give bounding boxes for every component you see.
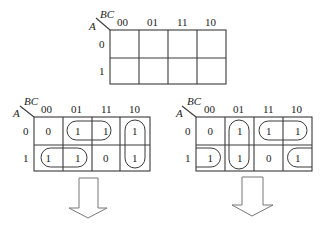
down-arrow-icon <box>69 178 107 218</box>
kmap-grouping-1: BC A 00 01 11 10 0 1 0 1 1 1 1 1 0 1 <box>12 95 150 171</box>
col-header: 11 <box>177 16 188 28</box>
cell-value: 1 <box>295 152 301 164</box>
col-header: 01 <box>71 103 82 115</box>
row-header: 1 <box>99 65 105 77</box>
cell-value: 0 <box>208 125 214 137</box>
down-arrow-icon <box>232 177 273 216</box>
cell-value: 1 <box>75 152 81 164</box>
col-header: 10 <box>205 16 217 28</box>
col-header: 00 <box>117 16 129 28</box>
cell-value: 1 <box>132 152 138 164</box>
col-header: 10 <box>291 103 303 115</box>
col-header: 00 <box>41 103 53 115</box>
corner-diagonal <box>182 106 196 117</box>
kmap-diagram: BC A 00 01 11 10 0 1 BC A 00 01 11 10 0 … <box>0 0 323 237</box>
corner-diagonal <box>20 106 34 117</box>
col-header: 01 <box>233 103 244 115</box>
kmap-grid <box>182 106 312 171</box>
row-header: 0 <box>23 125 29 137</box>
col-header: 01 <box>147 16 158 28</box>
cell-value: 1 <box>237 152 243 164</box>
kmap-empty: BC A 00 01 11 10 0 1 <box>88 8 226 84</box>
row-variable-label: A <box>175 107 183 119</box>
cell-value: 1 <box>132 125 138 137</box>
cell-value: 1 <box>208 152 214 164</box>
col-header: 10 <box>129 103 141 115</box>
row-variable-label: A <box>88 20 96 32</box>
row-header: 1 <box>185 152 191 164</box>
kmap-grid <box>20 106 150 171</box>
kmap-grouping-2: BC A 00 01 11 10 0 1 0 1 1 1 1 1 0 1 <box>175 95 312 171</box>
cell-value: 0 <box>266 152 272 164</box>
col-variable-label: BC <box>100 8 115 20</box>
row-header: 1 <box>23 152 29 164</box>
row-header: 0 <box>185 125 191 137</box>
col-variable-label: BC <box>187 95 202 107</box>
cell-value: 0 <box>103 152 109 164</box>
cell-value: 1 <box>266 125 272 137</box>
cell-value: 1 <box>295 125 301 137</box>
col-variable-label: BC <box>24 95 39 107</box>
cell-value: 1 <box>46 152 52 164</box>
row-header: 0 <box>99 38 105 50</box>
cell-value: 1 <box>103 125 109 137</box>
cell-value: 1 <box>75 125 81 137</box>
col-header: 00 <box>204 103 216 115</box>
col-header: 11 <box>101 103 112 115</box>
cell-value: 0 <box>46 125 52 137</box>
cell-value: 1 <box>237 125 243 137</box>
col-header: 11 <box>263 103 274 115</box>
row-variable-label: A <box>12 107 20 119</box>
